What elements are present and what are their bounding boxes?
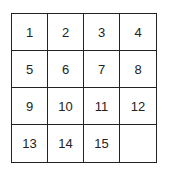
tile-10[interactable]: 10 bbox=[48, 88, 84, 125]
fifteen-puzzle-board: 1 2 3 4 5 6 7 8 9 10 11 12 13 14 15 bbox=[11, 13, 157, 163]
tile-1[interactable]: 1 bbox=[12, 14, 48, 51]
tile-9[interactable]: 9 bbox=[12, 88, 48, 125]
tile-8[interactable]: 8 bbox=[120, 51, 156, 88]
tile-14[interactable]: 14 bbox=[48, 125, 84, 162]
tile-2[interactable]: 2 bbox=[48, 14, 84, 51]
tile-12[interactable]: 12 bbox=[120, 88, 156, 125]
tile-6[interactable]: 6 bbox=[48, 51, 84, 88]
tile-15[interactable]: 15 bbox=[84, 125, 120, 162]
tile-11[interactable]: 11 bbox=[84, 88, 120, 125]
tile-4[interactable]: 4 bbox=[120, 14, 156, 51]
tile-3[interactable]: 3 bbox=[84, 14, 120, 51]
tile-13[interactable]: 13 bbox=[12, 125, 48, 162]
tile-5[interactable]: 5 bbox=[12, 51, 48, 88]
tile-7[interactable]: 7 bbox=[84, 51, 120, 88]
empty-slot[interactable] bbox=[120, 125, 156, 162]
